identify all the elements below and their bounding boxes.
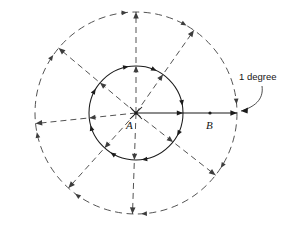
annotation-label-one-degree: 1 degree [239,71,277,82]
point-label-b: B [206,119,213,131]
point-b-marker [208,111,211,114]
concentric-circles-diagram: A B 1 degree [0,0,282,226]
figure-root: A B 1 degree [0,0,282,226]
point-label-a: A [125,119,133,131]
